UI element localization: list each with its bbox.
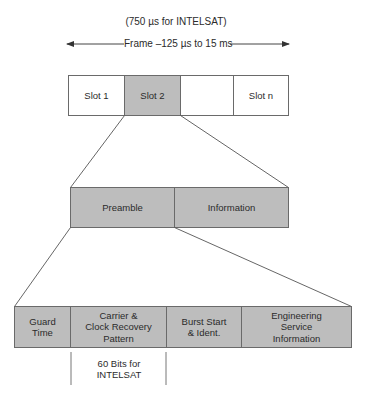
expand-line-right-2 xyxy=(175,228,352,307)
expand-line-right-1 xyxy=(181,116,289,188)
information-label: Information xyxy=(174,187,289,228)
slot-label-3 xyxy=(180,75,234,116)
preamble-label: Preamble xyxy=(70,187,175,228)
tdma-frame-diagram: (750 µs for INTELSAT) Frame –125 µs to 1… xyxy=(0,0,368,401)
slot-label-2: Slot 2 xyxy=(124,75,181,116)
engineering-service-label: Engineering Service Information xyxy=(241,306,352,348)
guard-time-label: Guard Time xyxy=(14,306,71,348)
expand-line-left-1 xyxy=(71,116,125,188)
sixty-bits-annotation: 60 Bits for INTELSAT xyxy=(72,354,166,384)
frame-label: Frame –125 µs to 15 ms xyxy=(124,38,230,50)
frame-subtitle: (750 µs for INTELSAT) xyxy=(118,16,234,28)
slot-label-1: Slot 1 xyxy=(68,75,125,116)
slot-label-n: Slot n xyxy=(233,75,289,116)
expand-line-left-2 xyxy=(15,228,71,307)
burst-start-label: Burst Start & Ident. xyxy=(166,306,242,348)
carrier-clock-label: Carrier & Clock Recovery Pattern xyxy=(70,306,167,348)
